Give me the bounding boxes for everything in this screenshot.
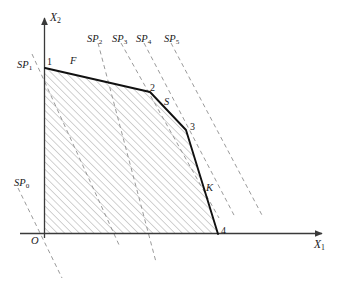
marker-label-f: F [70,56,76,67]
x-axis-label: X1 [314,239,325,252]
iso-line-label-sp3: SP3 [112,34,127,46]
vertex-label-4: 4 [221,226,226,236]
marker-label-s: S [164,97,169,108]
iso-line-label-sp4: SP4 [136,34,151,46]
iso-line-label-sp2: SP2 [87,34,102,46]
marker-label-k: K [206,183,213,194]
iso-line-label-sp1: SP1 [17,60,32,72]
iso-line-label-sp5: SP5 [164,34,179,46]
vertex-label-2: 2 [150,83,155,93]
y-axis-label: X2 [50,12,61,25]
vertex-label-1: 1 [47,57,52,67]
origin-label: O [31,236,39,247]
iso-line-label-sp0: SP0 [14,178,29,190]
vertex-label-3: 3 [190,122,195,132]
